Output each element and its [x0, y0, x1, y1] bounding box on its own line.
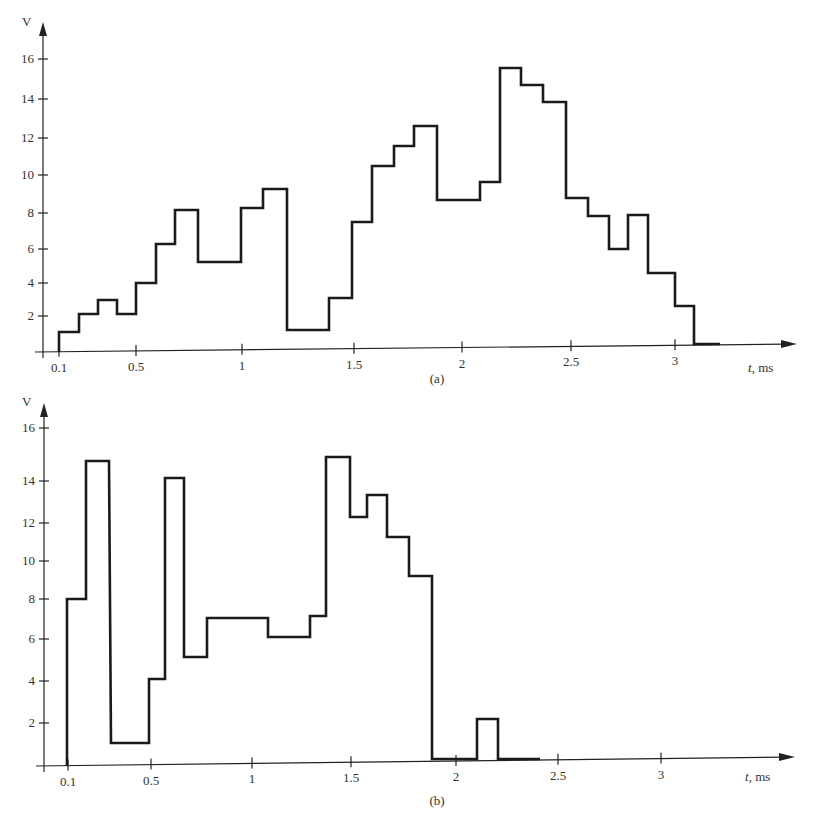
x-axis-line — [36, 757, 783, 766]
y-tick-label: 12 — [22, 515, 35, 530]
chart-caption: (b) — [429, 793, 444, 808]
x-axis-line — [35, 344, 785, 352]
y-tick-label: 12 — [21, 130, 34, 145]
x-tick-label: 1.5 — [346, 357, 362, 372]
y-tick-label: 14 — [21, 91, 35, 106]
y-tick-label: 10 — [21, 167, 34, 182]
x-tick-label: 2.5 — [563, 354, 579, 369]
x-axis-title-unit: , ms — [752, 360, 774, 375]
y-tick-label: 14 — [22, 473, 36, 488]
x-tick-label: 1 — [249, 771, 256, 786]
x-tick-label: 2 — [453, 769, 460, 784]
x-axis-arrow-icon — [779, 753, 795, 761]
x-tick-label: 1.5 — [343, 770, 359, 785]
x-axis-arrow-icon — [781, 340, 797, 348]
y-tick-label: 8 — [28, 205, 35, 220]
chart-caption: (a) — [430, 371, 444, 386]
y-tick-label: 8 — [29, 591, 36, 606]
y-tick-label: 6 — [28, 241, 35, 256]
chart-a: 2468101214160.10.511.522.53Vt, ms(a) — [21, 14, 797, 386]
y-tick-label: 16 — [21, 51, 35, 66]
y-tick-label: 6 — [29, 631, 36, 646]
x-tick-label: 2 — [459, 356, 466, 371]
chart-b: 2468101214160.10.511.522.53Vt, ms(b) — [22, 394, 795, 808]
x-tick-label: 1 — [239, 358, 246, 373]
x-tick-label: 0.5 — [143, 773, 159, 788]
y-tick-label: 4 — [29, 673, 36, 688]
x-tick-label: 0.1 — [51, 360, 67, 375]
y-axis-arrow-icon — [40, 403, 48, 417]
y-axis-title: V — [22, 14, 32, 29]
x-axis-title-unit: , ms — [749, 769, 771, 784]
x-tick-label: 3 — [658, 767, 665, 782]
y-tick-label: 2 — [29, 715, 36, 730]
x-tick-label: 0.5 — [128, 359, 144, 374]
y-axis-arrow-icon — [39, 22, 47, 36]
x-tick-label: 0.1 — [60, 774, 76, 789]
y-tick-label: 16 — [22, 420, 36, 435]
y-axis-title: V — [22, 394, 32, 409]
figure-canvas: 2468101214160.10.511.522.53Vt, ms(a) 246… — [0, 0, 820, 826]
x-axis-title: t, ms — [745, 769, 770, 784]
x-tick-label: 3 — [672, 353, 679, 368]
x-tick-label: 2.5 — [550, 768, 566, 783]
x-axis-title: t, ms — [748, 360, 773, 375]
y-tick-label: 4 — [28, 275, 35, 290]
y-tick-label: 10 — [22, 553, 35, 568]
voltage-step-trace — [59, 68, 720, 352]
y-tick-label: 2 — [28, 308, 35, 323]
voltage-step-trace — [67, 457, 540, 766]
